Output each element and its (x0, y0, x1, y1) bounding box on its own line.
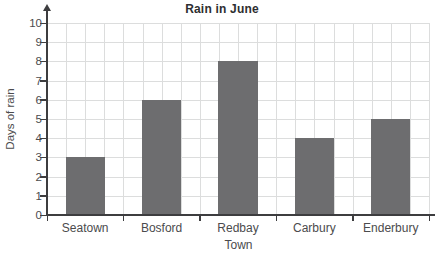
x-category-label-seatown: Seatown (47, 222, 123, 235)
x-tick-mark (123, 216, 125, 221)
x-tick-mark (199, 216, 201, 221)
x-tick-mark (429, 216, 431, 221)
y-tick-label: 4 (14, 132, 42, 144)
x-tick-mark (352, 216, 354, 221)
x-category-label-bosford: Bosford (123, 222, 199, 235)
x-tick-mark (276, 216, 278, 221)
chart-title: Rain in June (0, 2, 444, 16)
bar-carbury (295, 138, 334, 215)
y-tick-label: 7 (14, 75, 42, 87)
y-tick-label: 8 (14, 55, 42, 67)
y-axis-arrow-icon (43, 4, 51, 11)
x-tick-mark (47, 216, 49, 221)
y-tick-label: 1 (14, 190, 42, 202)
y-tick-label: 5 (14, 113, 42, 125)
x-category-label-carbury: Carbury (276, 222, 352, 235)
y-tick-label: 0 (14, 209, 42, 221)
bar-bosford (142, 100, 181, 215)
bar-enderbury (371, 119, 410, 215)
x-axis-label: Town (47, 238, 430, 252)
y-tick-label: 3 (14, 151, 42, 163)
gridline-horizontal (47, 42, 430, 43)
x-axis-line (46, 214, 435, 216)
y-axis-line (46, 11, 48, 216)
y-tick-label: 10 (14, 17, 42, 29)
y-tick-label: 2 (14, 171, 42, 183)
y-tick-label: 9 (14, 36, 42, 48)
x-category-label-enderbury: Enderbury (353, 222, 429, 235)
bar-chart: Rain in June Days of rain 012345678910 S… (0, 0, 444, 254)
gridline-horizontal (47, 23, 430, 24)
y-tick-label: 6 (14, 94, 42, 106)
plot-area (47, 23, 430, 216)
bar-seatown (66, 157, 105, 215)
x-category-label-redbay: Redbay (200, 222, 276, 235)
bar-redbay (218, 61, 257, 215)
